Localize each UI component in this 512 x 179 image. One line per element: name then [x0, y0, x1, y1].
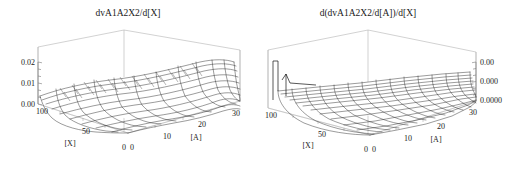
right-x-tick-0: 100 [265, 111, 277, 120]
surface-plot-left: dvA1A2X2/d[X] 0.02 0.01 0.00 100 50 0 0 … [0, 0, 256, 179]
left-z-tick-2: 0.00 [21, 100, 35, 109]
right-mesh-surface [273, 61, 476, 135]
left-plot-title: dvA1A2X2/d[X] [96, 8, 161, 18]
right-z-tick-1: 0.000 [480, 77, 498, 86]
figure-canvas: dvA1A2X2/d[X] 0.02 0.01 0.00 100 50 0 0 … [0, 0, 512, 179]
right-x-tick-2: 0 [364, 145, 368, 154]
left-z-tick-0: 0.02 [21, 58, 35, 67]
left-z-axis [38, 62, 42, 105]
left-x-tick-0: 100 [36, 107, 48, 116]
left-y-tick-3: 30 [232, 109, 240, 118]
left-x-tick-2: 0 [122, 143, 126, 152]
left-mesh-surface [40, 60, 240, 133]
right-z-tick-2: 0.0000 [480, 96, 502, 105]
right-x-tick-1: 50 [318, 130, 326, 139]
right-y-tick-2: 20 [437, 122, 445, 131]
right-y-tick-1: 10 [404, 134, 412, 143]
left-z-tick-1: 0.01 [21, 79, 35, 88]
right-plot-title: d(dvA1A2X2/d[A])/d[X] [320, 8, 417, 19]
left-y-tick-2: 20 [198, 120, 206, 129]
right-yaxis-label: [A] [430, 135, 441, 144]
surface-plot-right: d(dvA1A2X2/d[A])/d[X] 0.00 0.000 0.0000 … [256, 0, 512, 179]
right-y-tick-0: 0 [372, 145, 376, 154]
left-y-tick-0: 0 [130, 143, 134, 152]
right-y-tick-3: 30 [469, 108, 477, 117]
right-xaxis-label: [X] [302, 141, 313, 150]
left-y-tick-1: 10 [163, 132, 171, 141]
left-xaxis-label: [X] [64, 139, 75, 148]
left-x-tick-1: 50 [82, 127, 90, 136]
left-yaxis-label: [A] [190, 133, 201, 142]
right-z-tick-0: 0.00 [480, 58, 494, 67]
